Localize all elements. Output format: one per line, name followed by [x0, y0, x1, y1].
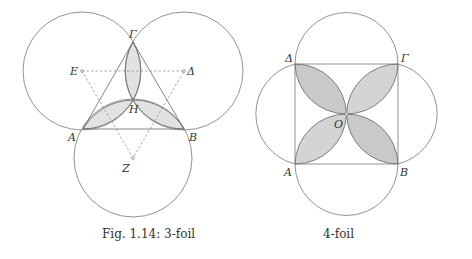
label-a: A: [283, 166, 292, 179]
label-eta: H: [128, 103, 139, 116]
point-e: [81, 70, 84, 73]
petal-b-o: [347, 114, 399, 164]
label-delta: Δ: [284, 52, 293, 65]
circle-bottom: [295, 164, 398, 216]
petal-gamma-o: [347, 64, 399, 114]
label-e: E: [69, 65, 78, 78]
three-foil-diagram: Γ E Δ H A B Z: [23, 12, 243, 217]
circle-top: [295, 13, 398, 65]
label-o: O: [334, 118, 343, 131]
circle-right: [398, 64, 437, 164]
label-b: B: [188, 131, 197, 144]
point-zeta: [132, 157, 135, 160]
four-foil-diagram: Δ Γ O A B: [256, 13, 437, 216]
petal-delta-o: [295, 64, 347, 114]
circle-left: [256, 64, 295, 164]
point-o: [345, 113, 348, 116]
label-a: A: [67, 131, 76, 144]
label-gamma: Γ: [400, 52, 409, 65]
petal-eta-b: [133, 100, 184, 129]
point-delta: [183, 70, 186, 73]
label-gamma: Γ: [128, 28, 137, 41]
figure-canvas: Γ E Δ H A B Z Δ Γ O A B Fig. 1.14: 3-foi…: [0, 0, 472, 259]
caption-3-foil: Fig. 1.14: 3-foil: [102, 227, 195, 241]
caption-4-foil: 4-foil: [323, 227, 354, 241]
label-zeta: Z: [121, 162, 130, 175]
label-b: B: [399, 166, 408, 179]
label-delta: Δ: [186, 65, 195, 78]
